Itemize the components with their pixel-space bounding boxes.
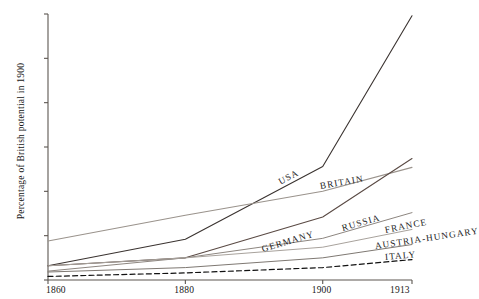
series-layer xyxy=(48,16,412,277)
x-tick-label: 1913 xyxy=(390,286,410,296)
x-tick-label: 1860 xyxy=(46,286,66,296)
x-tick-label: 1900 xyxy=(312,286,332,296)
y-tick-labels: 050100150200250300 xyxy=(0,0,44,299)
axis-layer xyxy=(44,14,412,284)
x-tick-label: 1880 xyxy=(174,286,194,296)
